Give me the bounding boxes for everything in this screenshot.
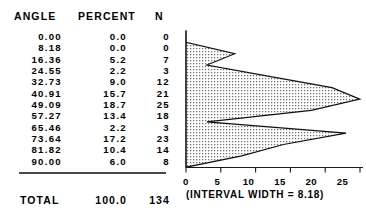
cell-angle: 32.73 [31, 76, 62, 87]
cell-percent: 0.0 [110, 31, 127, 42]
cell-angle: 65.46 [31, 122, 62, 133]
distribution-chart: 0 5 10 15 20 25 (INTERVAL WIDTH = 8.18) [186, 0, 366, 219]
table-total-divider [19, 172, 166, 174]
table-row: 73.64 17.2 23 [0, 133, 186, 144]
cell-percent: 2.2 [110, 65, 127, 76]
x-tick-label-25: 25 [337, 176, 349, 187]
table-row: 8.18 0.0 0 [0, 42, 186, 53]
column-header-angle: ANGLE [14, 10, 56, 22]
total-label: TOTAL [20, 194, 60, 206]
cell-angle: 81.82 [31, 144, 62, 155]
chart-caption: (INTERVAL WIDTH = 8.18) [186, 189, 366, 200]
cell-percent: 10.4 [103, 144, 127, 155]
cell-angle: 24.55 [31, 65, 62, 76]
table-row: 81.82 10.4 14 [0, 144, 186, 155]
cell-angle: 57.27 [31, 110, 62, 121]
table-row: 65.46 2.2 3 [0, 122, 186, 133]
table-body: 0.00 0.0 0 8.18 0.0 0 16.36 5.2 7 24.55 … [0, 31, 186, 167]
cell-angle: 8.18 [38, 42, 62, 53]
table-row: 16.36 5.2 7 [0, 54, 186, 65]
table-total-row: TOTAL 100.0 134 [0, 194, 186, 207]
x-axis-tick-labels: 0 5 10 15 20 25 [186, 176, 366, 189]
x-tick-label-15: 15 [274, 176, 286, 187]
cell-angle: 16.36 [31, 54, 62, 65]
column-header-n: N [155, 10, 164, 22]
cell-percent: 0.0 [110, 42, 127, 53]
table-row: 32.73 9.0 12 [0, 76, 186, 87]
figure-root: ANGLE PERCENT N 0.00 0.0 0 8.18 0.0 0 16… [0, 0, 366, 219]
x-tick-label-0: 0 [183, 176, 189, 187]
table-row: 0.00 0.0 0 [0, 31, 186, 42]
cell-percent: 6.0 [110, 156, 127, 167]
cell-percent: 5.2 [110, 54, 127, 65]
table-row: 90.00 6.0 8 [0, 156, 186, 167]
cell-angle: 90.00 [31, 156, 62, 167]
cell-angle: 0.00 [38, 31, 62, 42]
total-percent: 100.0 [95, 194, 127, 206]
cell-angle: 40.91 [31, 88, 62, 99]
table-row: 57.27 13.4 18 [0, 110, 186, 121]
x-tick-label-10: 10 [243, 176, 255, 187]
cell-angle: 73.64 [31, 133, 62, 144]
distribution-silhouette [186, 31, 360, 167]
column-header-percent: PERCENT [78, 10, 136, 22]
cell-percent: 18.7 [103, 99, 127, 110]
chart-plot-area [166, 0, 366, 200]
table-row: 40.91 15.7 21 [0, 88, 186, 99]
table-header-row: ANGLE PERCENT N [0, 10, 186, 24]
x-tick-label-20: 20 [305, 176, 317, 187]
cell-percent: 9.0 [110, 76, 127, 87]
cell-percent: 17.2 [103, 133, 127, 144]
cell-percent: 15.7 [103, 88, 127, 99]
cell-percent: 13.4 [103, 110, 127, 121]
table-row: 49.09 18.7 25 [0, 99, 186, 110]
table-row: 24.55 2.2 3 [0, 65, 186, 76]
frequency-table: ANGLE PERCENT N 0.00 0.0 0 8.18 0.0 0 16… [0, 0, 186, 219]
x-tick-label-5: 5 [214, 176, 220, 187]
cell-angle: 49.09 [31, 99, 62, 110]
cell-percent: 2.2 [110, 122, 127, 133]
